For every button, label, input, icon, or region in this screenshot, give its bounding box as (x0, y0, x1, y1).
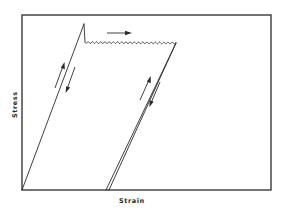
elastic-reloading-line (109, 43, 176, 190)
yield-drop-line (84, 24, 85, 42)
down-arrow-icon (149, 82, 160, 107)
stress-strain-diagram: Strain Stress (0, 0, 294, 208)
serrated-plastic-flow-line (85, 42, 176, 44)
right-arrow-icon (107, 31, 132, 35)
up-arrow-icon (140, 76, 151, 100)
initial-elastic-loading-line (22, 24, 84, 190)
y-axis-label: Stress (11, 91, 19, 118)
plot-frame (22, 15, 271, 190)
up-arrow-icon (55, 62, 65, 88)
x-axis-label: Strain (119, 197, 145, 205)
